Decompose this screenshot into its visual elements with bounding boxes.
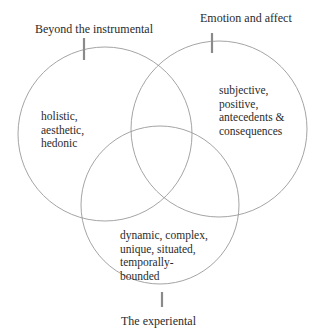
description-beyond-instrumental: holistic, aesthetic, hedonic	[41, 110, 84, 151]
label-emotion-affect: Emotion and affect	[200, 11, 292, 25]
description-experiential: dynamic, complex, unique, situated, temp…	[120, 229, 208, 283]
label-experiential: The experiental	[121, 314, 196, 328]
description-emotion-affect: subjective, positive, antecedents & cons…	[219, 84, 284, 138]
venn-diagram: Beyond the instrumental Emotion and affe…	[0, 0, 320, 330]
label-beyond-instrumental: Beyond the instrumental	[35, 22, 153, 36]
